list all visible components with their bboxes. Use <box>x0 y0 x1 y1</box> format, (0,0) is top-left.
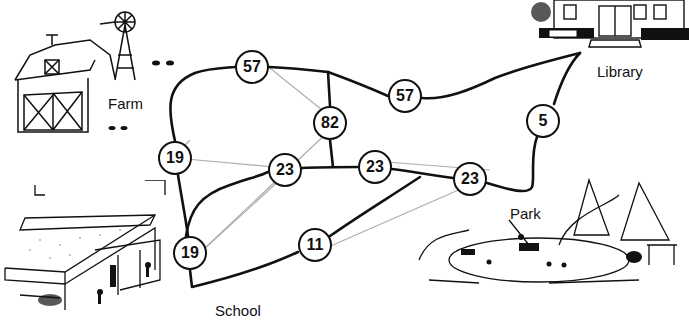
road-node-57-right[interactable]: 57 <box>388 79 422 113</box>
road-node-23-left[interactable]: 23 <box>268 153 302 187</box>
road-node-19-bottom[interactable]: 19 <box>173 236 207 270</box>
place-label-library: Library <box>597 63 643 80</box>
road-node-82[interactable]: 82 <box>313 106 347 140</box>
road-node-57-top[interactable]: 57 <box>235 50 269 84</box>
road-node-23-right[interactable]: 23 <box>453 162 487 196</box>
road-node-23-center[interactable]: 23 <box>358 150 392 184</box>
road-node-11[interactable]: 11 <box>298 228 332 262</box>
road-node-19-left[interactable]: 19 <box>158 141 192 175</box>
park-illustration <box>409 165 689 285</box>
place-label-school: School <box>215 302 261 319</box>
school-illustration <box>0 180 185 310</box>
farm-illustration <box>0 0 200 140</box>
map-diagram: Farm Library Park School 57 57 82 19 23 … <box>0 0 689 324</box>
library-illustration <box>529 0 689 55</box>
place-label-farm: Farm <box>108 95 143 112</box>
place-label-park: Park <box>510 205 541 222</box>
road-node-5[interactable]: 5 <box>526 104 560 138</box>
